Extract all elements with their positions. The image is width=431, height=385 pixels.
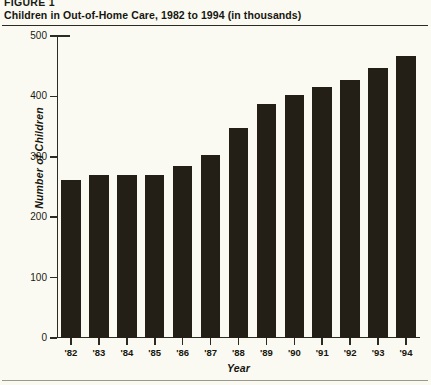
x-tick-mark [349, 338, 351, 345]
x-axis-label: Year [57, 362, 420, 374]
x-tick-mark [321, 338, 323, 345]
figure-title: Children in Out-of-Home Care, 1982 to 19… [4, 9, 301, 21]
x-tick-mark [98, 338, 100, 345]
bar [145, 175, 165, 338]
figure-label: FIGURE 1 [4, 0, 55, 8]
x-tick-mark [294, 338, 296, 345]
bar-series [57, 36, 420, 338]
x-tick-mark [266, 338, 268, 345]
bar [173, 166, 193, 338]
x-tick-mark [238, 338, 240, 345]
y-tick-label: 400 [30, 89, 47, 102]
x-tick-mark [210, 338, 212, 345]
bar [61, 180, 81, 338]
y-tick-mark [50, 216, 57, 218]
y-tick-mark [50, 156, 57, 158]
bar [257, 104, 277, 338]
x-tick-mark [154, 338, 156, 345]
bar [229, 128, 249, 338]
bar [312, 87, 332, 338]
bar [396, 56, 416, 338]
x-tick-mark [377, 338, 379, 345]
bar [340, 80, 360, 338]
figure-container: FIGURE 1 Children in Out-of-Home Care, 1… [0, 0, 431, 385]
y-tick-mark [50, 35, 57, 37]
y-tick-label: 300 [30, 150, 47, 163]
x-tick-mark [126, 338, 128, 345]
bottom-divider [2, 380, 428, 381]
y-tick-mark [50, 337, 57, 339]
bar [368, 68, 388, 338]
title-divider [2, 25, 428, 26]
bar [285, 95, 305, 338]
y-tick-label: 100 [30, 271, 47, 284]
y-tick-label: 200 [30, 210, 47, 223]
x-tick-mark [70, 338, 72, 345]
bar [117, 175, 137, 338]
bar [89, 175, 109, 338]
y-tick-mark [50, 96, 57, 98]
y-tick-label: 0 [41, 331, 47, 344]
x-tick-mark [182, 338, 184, 345]
x-tick-label: '94 [390, 347, 422, 358]
x-tick-mark [405, 338, 407, 345]
bar [201, 155, 221, 338]
y-tick-label: 500 [30, 29, 47, 42]
y-tick-mark [50, 277, 57, 279]
